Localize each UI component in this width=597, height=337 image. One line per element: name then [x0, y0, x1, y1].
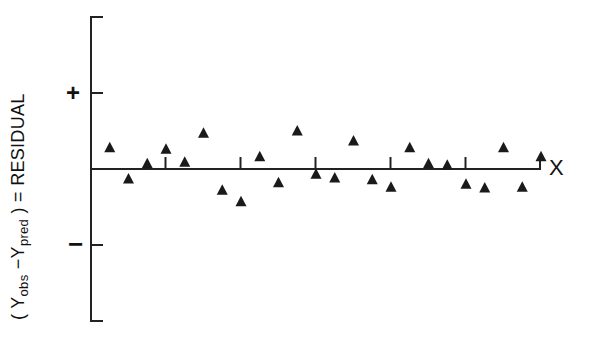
- triangle-marker: [442, 159, 453, 170]
- y-label-minus: −: [8, 258, 28, 274]
- triangle-marker: [517, 181, 528, 192]
- y-label-open: (: [8, 309, 28, 320]
- triangle-marker: [273, 177, 284, 188]
- y-tick-plus: +: [66, 79, 80, 107]
- y-label-close: ) = RESIDUAL: [8, 93, 28, 218]
- y-tick-minus: −: [68, 229, 83, 260]
- y-axis-label: ( Yobs −Ypred ) = RESIDUAL: [8, 93, 31, 320]
- y-label-y1: Y: [8, 296, 28, 308]
- triangle-marker: [386, 181, 397, 192]
- x-axis-label: X: [549, 155, 564, 181]
- triangle-marker: [161, 143, 172, 154]
- triangle-marker: [236, 196, 247, 207]
- triangle-marker: [498, 142, 509, 153]
- triangle-marker: [179, 156, 190, 167]
- triangle-marker: [423, 158, 434, 169]
- triangle-marker: [348, 135, 359, 146]
- triangle-marker: [367, 174, 378, 185]
- triangle-marker: [104, 142, 115, 153]
- triangle-marker: [123, 173, 134, 184]
- triangle-marker: [461, 178, 472, 189]
- triangle-marker: [479, 182, 490, 193]
- y-label-y2: Y: [8, 246, 28, 258]
- triangle-marker: [198, 127, 209, 138]
- triangle-marker: [142, 158, 153, 169]
- triangle-marker: [254, 151, 265, 162]
- data-points: [104, 125, 546, 206]
- triangle-marker: [329, 172, 340, 183]
- residual-plot: [0, 0, 597, 337]
- y-label-sub-pred: pred: [16, 219, 31, 246]
- triangle-marker: [404, 142, 415, 153]
- y-label-sub-obs: obs: [16, 275, 31, 297]
- x-axis-ticks: [166, 157, 466, 169]
- triangle-marker: [536, 151, 547, 162]
- triangle-marker: [217, 184, 228, 195]
- triangle-marker: [292, 125, 303, 136]
